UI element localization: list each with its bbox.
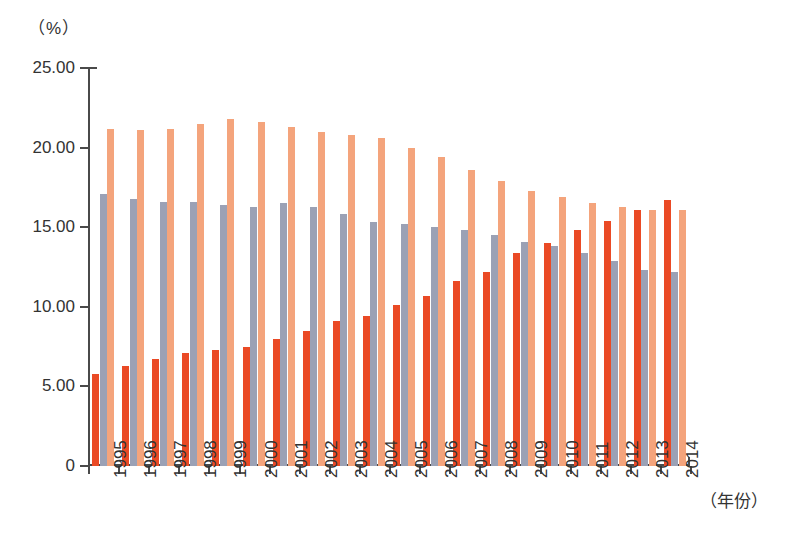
- bar: [137, 130, 144, 466]
- bar: [491, 235, 498, 466]
- bar: [483, 272, 490, 466]
- bar: [431, 227, 438, 466]
- bar: [378, 138, 385, 466]
- bar: [521, 242, 528, 466]
- x-axis-tick-label: 2005: [412, 440, 432, 478]
- bar: [280, 203, 287, 466]
- x-axis-title: （年份）: [700, 487, 768, 512]
- bar: [167, 129, 174, 467]
- bar: [581, 253, 588, 466]
- bar: [468, 170, 475, 466]
- x-axis-tick-label: 2008: [502, 440, 522, 478]
- x-axis-tick-label: 2003: [352, 440, 372, 478]
- bar: [107, 129, 114, 467]
- x-axis-tick-label: 1996: [141, 440, 161, 478]
- bar: [310, 207, 317, 466]
- x-axis-tick-label: 1998: [201, 440, 221, 478]
- x-axis-tick-label: 2010: [563, 440, 583, 478]
- bar: [408, 148, 415, 466]
- bar: [318, 132, 325, 466]
- x-axis-tick-label: 2001: [292, 440, 312, 478]
- bar: [551, 246, 558, 466]
- x-axis-tick-label: 2004: [382, 440, 402, 478]
- x-axis-tick-label: 2014: [683, 440, 703, 478]
- bar: [679, 210, 686, 466]
- bar: [401, 224, 408, 466]
- bar: [130, 199, 137, 466]
- bar: [348, 135, 355, 466]
- bar: [498, 181, 505, 466]
- bar: [370, 222, 377, 466]
- bar: [340, 214, 347, 466]
- bar: [92, 374, 99, 466]
- bar-chart: （%） 05.0010.0015.0020.0025.00 1995199619…: [0, 0, 789, 547]
- x-axis-tick-label: 2002: [322, 440, 342, 478]
- bar: [453, 281, 460, 466]
- x-axis-tick-label: 2009: [532, 440, 552, 478]
- bar: [160, 202, 167, 466]
- bar: [220, 205, 227, 466]
- bar: [227, 119, 234, 466]
- x-axis-tick-label: 2000: [262, 440, 282, 478]
- bar: [649, 210, 656, 466]
- x-axis-tick-label: 2012: [623, 440, 643, 478]
- bar: [611, 261, 618, 466]
- x-axis-tick-label: 2013: [653, 440, 673, 478]
- bar: [528, 191, 535, 466]
- bar: [288, 127, 295, 466]
- bar: [250, 207, 257, 466]
- bar: [513, 253, 520, 466]
- x-axis-tick-label: 1997: [171, 440, 191, 478]
- bar: [641, 270, 648, 466]
- bar: [197, 124, 204, 466]
- bar: [544, 243, 551, 466]
- bar: [664, 200, 671, 466]
- bar: [589, 203, 596, 466]
- x-axis-tick-label: 2011: [593, 441, 613, 478]
- bar: [258, 122, 265, 466]
- bar: [574, 230, 581, 466]
- x-axis-tick-label: 1999: [231, 440, 251, 478]
- x-axis-tick-label: 2006: [442, 440, 462, 478]
- bar: [604, 221, 611, 466]
- bar: [634, 210, 641, 466]
- bar: [619, 207, 626, 466]
- bar: [461, 230, 468, 466]
- x-axis-tick-label: 1995: [111, 440, 131, 478]
- bar: [438, 157, 445, 466]
- bar: [671, 272, 678, 466]
- bar: [559, 197, 566, 466]
- x-axis-tick-label: 2007: [472, 440, 492, 478]
- bar: [190, 202, 197, 466]
- bar: [100, 194, 107, 466]
